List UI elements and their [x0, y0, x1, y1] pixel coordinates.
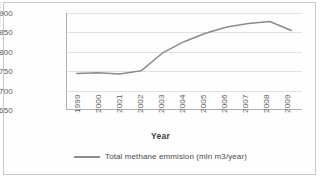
- x-tick-label-1999: 1999: [73, 94, 82, 113]
- y-tick-label-650: 650: [0, 106, 13, 115]
- x-axis-title: Year: [4, 131, 317, 141]
- x-tick-label-2005: 2005: [199, 94, 208, 113]
- x-tick-label-2006: 2006: [220, 94, 229, 113]
- chart-legend: Total methane emmision (mln m3/year): [4, 152, 317, 161]
- x-tick-label-2009: 2009: [283, 94, 292, 113]
- x-tick-label-2008: 2008: [262, 94, 271, 113]
- x-tick-label-2007: 2007: [241, 94, 250, 113]
- chart-frame: mln m3/year 650 700 750 800 850 900 1999…: [3, 2, 316, 175]
- legend-line-swatch: [74, 156, 100, 158]
- x-tick-label-2001: 2001: [115, 94, 124, 113]
- x-tick-label-2000: 2000: [94, 94, 103, 113]
- y-tick-label-800: 800: [0, 47, 13, 56]
- y-tick-label-900: 900: [0, 9, 13, 18]
- y-tick-label-850: 850: [0, 28, 13, 37]
- x-tick-label-2003: 2003: [157, 94, 166, 113]
- x-tick-label-2004: 2004: [178, 94, 187, 113]
- chart-canvas: mln m3/year 650 700 750 800 850 900 1999…: [4, 3, 315, 174]
- legend-item-label: Total methane emmision (mln m3/year): [105, 152, 247, 161]
- x-tick-label-2002: 2002: [136, 94, 145, 113]
- y-tick-label-750: 750: [0, 67, 13, 76]
- y-tick-label-700: 700: [0, 86, 13, 95]
